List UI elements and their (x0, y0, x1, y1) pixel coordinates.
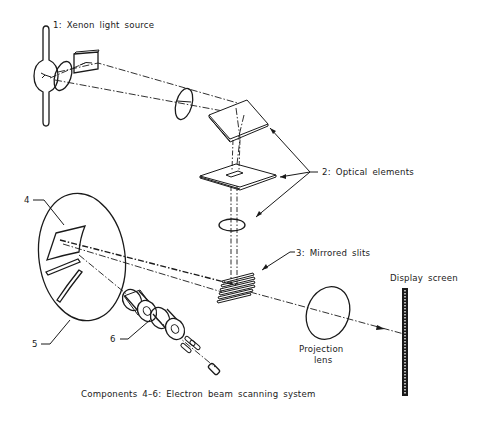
display-screen (402, 288, 408, 396)
callout-4: 4 (24, 195, 30, 205)
optical-system-diagram: 2: Optical elements 3: Mirrored slits Pr… (0, 0, 486, 422)
caption: Components 4–6: Electron beam scanning s… (81, 389, 316, 399)
tilted-mirror (209, 100, 268, 142)
electrode-plates (180, 336, 201, 354)
projection-ray-arrow (376, 325, 385, 330)
electron-gun (208, 363, 221, 376)
light-ray-upper (58, 63, 248, 106)
mirrored-slits (217, 273, 255, 303)
leader-line-slits (262, 252, 295, 270)
electron-return-ray-b (63, 244, 222, 292)
label-optical-elements: 2: Optical elements (322, 167, 414, 177)
deflection-coil-1 (119, 286, 161, 325)
label-mirrored-slits: 3: Mirrored slits (296, 248, 371, 258)
deflector-plates (46, 259, 82, 302)
deflection-coil-2 (147, 304, 189, 343)
label-xenon-light-source: 1: Xenon light source (53, 20, 154, 30)
callout-leaders (33, 200, 150, 344)
focusing-lens (219, 219, 245, 231)
label-projection-lens-1: Projection (299, 344, 344, 354)
electron-return-ray-a (60, 240, 236, 285)
callout-6: 6 (110, 334, 116, 344)
label-display-screen: Display screen (390, 273, 458, 283)
reflector-block (74, 50, 99, 73)
callout-5: 5 (32, 339, 38, 349)
aperture-plate (200, 164, 276, 190)
label-projection-lens-2: lens (314, 355, 333, 365)
